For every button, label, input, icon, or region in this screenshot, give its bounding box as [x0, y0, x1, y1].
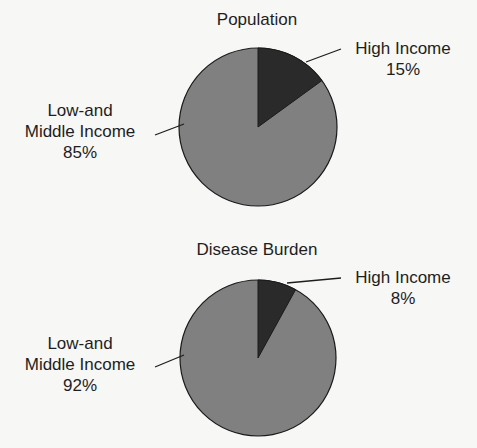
disease-high-income-leader-line — [287, 278, 341, 283]
disease-low-middle-name-line2: Middle Income — [10, 354, 150, 375]
disease-high-income-name: High Income — [340, 267, 466, 288]
population-low-middle-label: Low-and Middle Income 85% — [10, 100, 150, 163]
disease-high-income-value: 8% — [340, 288, 466, 309]
disease-high-income-label: High Income 8% — [340, 267, 466, 309]
population-high-income-value: 15% — [340, 59, 466, 80]
disease-low-middle-value: 92% — [10, 375, 150, 396]
population-high-income-label: High Income 15% — [340, 38, 466, 80]
disease-burden-pie — [155, 278, 341, 436]
disease-low-middle-name-line1: Low-and — [10, 333, 150, 354]
disease-low-middle-label: Low-and Middle Income 92% — [10, 333, 150, 396]
population-pie — [155, 48, 341, 206]
population-low-middle-name-line2: Middle Income — [10, 121, 150, 142]
disease-burden-title: Disease Burden — [176, 239, 338, 260]
population-high-income-leader-line — [306, 49, 341, 62]
population-title: Population — [200, 9, 314, 30]
population-high-income-name: High Income — [340, 38, 466, 59]
population-low-middle-value: 85% — [10, 142, 150, 163]
population-low-middle-name-line1: Low-and — [10, 100, 150, 121]
